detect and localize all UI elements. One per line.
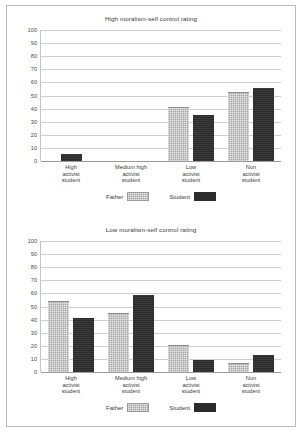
bar-student — [61, 154, 82, 161]
legend: Father Student — [41, 192, 281, 201]
bar-group — [161, 241, 221, 372]
y-axis-tick-label: 0 — [34, 158, 37, 164]
y-axis-tick-label: 40 — [31, 106, 37, 112]
bars — [221, 241, 281, 372]
bar-group — [161, 30, 221, 161]
legend-item-student: Student — [169, 192, 216, 201]
bar-group — [101, 241, 161, 372]
y-axis-tick-label: 90 — [31, 251, 37, 257]
bar-student — [253, 88, 274, 161]
bars — [41, 30, 101, 161]
bars — [221, 30, 281, 161]
bar-student — [133, 295, 154, 372]
bar-student — [193, 115, 214, 161]
y-axis-tick-label: 10 — [31, 145, 37, 151]
bar-student — [253, 355, 274, 372]
legend-item-father: Father — [106, 192, 149, 201]
y-axis-tick-label: 30 — [31, 330, 37, 336]
legend-item-father: Father — [106, 403, 149, 412]
y-axis-tick-label: 10 — [31, 356, 37, 362]
category-label: Highactiviststudent — [41, 164, 101, 184]
bar-father — [228, 363, 249, 372]
chart-high-moralism: High moralism-self control rating 010203… — [7, 6, 295, 216]
bar-father — [168, 107, 189, 161]
bar-groups — [41, 241, 281, 372]
bar-group — [41, 241, 101, 372]
category-label: Lowactiviststudent — [161, 164, 221, 184]
bar-group — [221, 241, 281, 372]
bar-group — [101, 30, 161, 161]
bar-student — [193, 360, 214, 372]
legend-swatch-father — [127, 192, 149, 201]
bar-group — [41, 30, 101, 161]
legend: Father Student — [41, 403, 281, 412]
legend-swatch-student — [194, 192, 216, 201]
bars — [41, 241, 101, 372]
bar-father — [168, 345, 189, 373]
y-axis-tick-label: 60 — [31, 79, 37, 85]
chart-low-moralism: Low moralism-self control rating 0102030… — [7, 217, 295, 427]
y-axis-tick-label: 30 — [31, 119, 37, 125]
legend-label-father: Father — [106, 405, 123, 411]
category-label: Nonactiviststudent — [221, 375, 281, 395]
y-axis-tick-label: 20 — [31, 343, 37, 349]
category-labels: HighactiviststudentMedium highactivistst… — [41, 164, 281, 184]
bars — [161, 241, 221, 372]
bars — [161, 30, 221, 161]
legend-label-student: Student — [169, 194, 190, 200]
y-axis-tick-label: 90 — [31, 40, 37, 46]
bar-student — [73, 318, 94, 372]
bars — [101, 241, 161, 372]
legend-swatch-father — [127, 403, 149, 412]
y-axis-tick-label: 60 — [31, 290, 37, 296]
legend-swatch-student — [194, 403, 216, 412]
bar-father — [228, 92, 249, 161]
y-axis-tick-label: 80 — [31, 53, 37, 59]
y-axis-tick-label: 50 — [31, 304, 37, 310]
gridline: 0 — [41, 372, 281, 373]
chart-title: Low moralism-self control rating — [7, 226, 295, 233]
bar-group — [221, 30, 281, 161]
y-axis-tick-label: 70 — [31, 66, 37, 72]
category-labels: HighactiviststudentMedium highactivistst… — [41, 375, 281, 395]
legend-label-student: Student — [169, 405, 190, 411]
gridline: 0 — [41, 161, 281, 162]
category-label: Highactiviststudent — [41, 375, 101, 395]
legend-item-student: Student — [169, 403, 216, 412]
y-axis-tick-label: 20 — [31, 132, 37, 138]
bar-groups — [41, 30, 281, 161]
category-label: Medium highactiviststudent — [101, 164, 161, 184]
chart-title: High moralism-self control rating — [7, 15, 295, 22]
y-axis-tick-label: 80 — [31, 264, 37, 270]
y-axis-tick-label: 100 — [28, 238, 37, 244]
bar-father — [108, 313, 129, 372]
bar-father — [48, 301, 69, 372]
legend-label-father: Father — [106, 194, 123, 200]
bars — [101, 30, 161, 161]
y-axis-tick-label: 0 — [34, 369, 37, 375]
category-label: Lowactiviststudent — [161, 375, 221, 395]
y-axis-tick-label: 70 — [31, 277, 37, 283]
y-axis-tick-label: 50 — [31, 93, 37, 99]
y-axis-tick-label: 100 — [28, 27, 37, 33]
category-label: Nonactiviststudent — [221, 164, 281, 184]
figure-frame: High moralism-self control rating 010203… — [6, 5, 296, 427]
y-axis-tick-label: 40 — [31, 317, 37, 323]
plot-area: 0102030405060708090100 — [41, 30, 281, 161]
plot-area: 0102030405060708090100 — [41, 241, 281, 372]
category-label: Medium highactiviststudent — [101, 375, 161, 395]
